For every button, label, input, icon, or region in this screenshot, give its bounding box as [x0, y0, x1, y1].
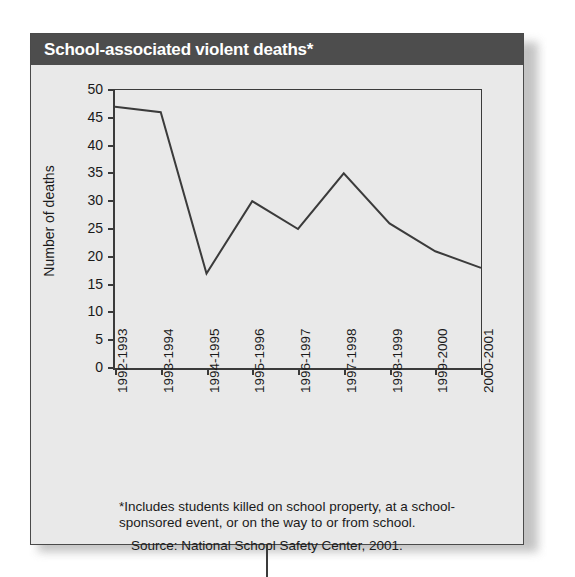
source-text: Source: National School Safety Center, 2…	[131, 538, 503, 553]
y-axis-tick-label: 10	[87, 304, 103, 318]
x-axis-tick-label: 1998-1999	[390, 328, 405, 393]
chart-card: School-associated violent deaths* Number…	[30, 33, 524, 545]
page-title: School-associated violent deaths*	[44, 40, 313, 60]
y-axis-tick-mark	[108, 145, 115, 147]
x-axis-tick-label: 2000-2001	[481, 328, 496, 393]
x-axis-tick-label: 1993-1994	[161, 328, 176, 393]
y-axis-tick-label: 0	[95, 360, 103, 374]
y-axis-tick-label: 20	[87, 249, 103, 263]
chart-area: Number of deaths 05101520253035404550199…	[31, 65, 523, 425]
y-axis-tick-mark	[108, 228, 115, 230]
leader-line	[266, 545, 268, 577]
y-axis-title: Number of deaths	[41, 141, 57, 301]
x-axis-tick-label: 1999-2000	[435, 328, 450, 393]
card-body: Number of deaths 05101520253035404550199…	[31, 65, 523, 544]
y-axis-tick-label: 35	[87, 165, 103, 179]
y-axis-tick-mark	[108, 172, 115, 174]
line-series	[115, 90, 481, 368]
y-axis-tick-label: 30	[87, 193, 103, 207]
y-axis-tick-mark	[108, 311, 115, 313]
y-axis-tick-label: 15	[87, 277, 103, 291]
y-axis-tick-label: 5	[95, 332, 103, 346]
y-axis-tick-label: 45	[87, 110, 103, 124]
y-axis-tick-label: 50	[87, 82, 103, 96]
y-axis-tick-mark	[108, 339, 115, 341]
x-axis-tick-label: 1996-1997	[298, 328, 313, 393]
y-axis-tick-mark	[108, 200, 115, 202]
footnote-text: *Includes students killed on school prop…	[119, 499, 491, 530]
x-axis-tick-label: 1995-1996	[252, 328, 267, 393]
x-axis-tick-label: 1992-1993	[115, 328, 130, 393]
plot-frame: 051015202530354045501992-19931993-199419…	[113, 89, 482, 370]
y-axis-tick-mark	[108, 89, 115, 91]
y-axis-tick-mark	[108, 284, 115, 286]
series-line	[115, 107, 481, 274]
y-axis-tick-label: 25	[87, 221, 103, 235]
x-axis-tick-label: 1994-1995	[207, 328, 222, 393]
figure-page: School-associated violent deaths* Number…	[0, 0, 575, 577]
card-header: School-associated violent deaths*	[31, 34, 523, 65]
x-axis-tick-label: 1997-1998	[344, 328, 359, 393]
y-axis-tick-mark	[108, 256, 115, 258]
y-axis-tick-mark	[108, 367, 115, 369]
y-axis-tick-label: 40	[87, 138, 103, 152]
y-axis-tick-mark	[108, 117, 115, 119]
